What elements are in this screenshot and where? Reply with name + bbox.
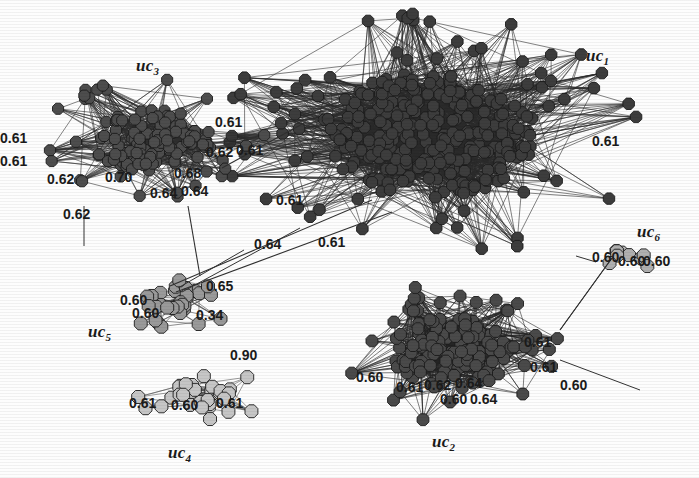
graph-node[interactable] <box>508 341 520 353</box>
graph-node[interactable] <box>161 301 174 314</box>
graph-node[interactable] <box>603 193 614 204</box>
graph-node[interactable] <box>409 282 421 294</box>
graph-node[interactable] <box>134 190 145 201</box>
graph-node[interactable] <box>117 115 128 126</box>
graph-node[interactable] <box>479 106 490 117</box>
graph-node[interactable] <box>434 297 446 309</box>
graph-node[interactable] <box>401 119 412 130</box>
graph-node[interactable] <box>397 175 408 187</box>
graph-node[interactable] <box>406 79 418 91</box>
graph-node[interactable] <box>456 99 467 111</box>
graph-node[interactable] <box>388 316 400 328</box>
graph-node[interactable] <box>469 181 480 193</box>
graph-node[interactable] <box>479 118 491 130</box>
graph-node[interactable] <box>452 222 463 233</box>
graph-node[interactable] <box>110 149 121 160</box>
graph-node[interactable] <box>363 135 374 146</box>
graph-node[interactable] <box>436 213 448 225</box>
graph-node[interactable] <box>480 174 492 186</box>
graph-node[interactable] <box>506 19 517 31</box>
graph-node[interactable] <box>427 119 439 130</box>
graph-node[interactable] <box>391 47 402 59</box>
graph-node[interactable] <box>408 305 420 317</box>
graph-node[interactable] <box>192 152 203 163</box>
graph-node[interactable] <box>524 130 536 142</box>
graph-node[interactable] <box>462 332 474 344</box>
graph-node[interactable] <box>302 151 314 163</box>
graph-node[interactable] <box>630 111 642 122</box>
graph-node[interactable] <box>445 71 457 82</box>
graph-node[interactable] <box>486 356 498 368</box>
graph-node[interactable] <box>353 111 364 123</box>
graph-node[interactable] <box>445 321 457 333</box>
graph-node[interactable] <box>293 123 304 134</box>
graph-node[interactable] <box>134 133 145 144</box>
graph-node[interactable] <box>435 157 446 168</box>
graph-node[interactable] <box>588 83 599 94</box>
graph-node[interactable] <box>325 123 337 134</box>
graph-node[interactable] <box>44 145 55 156</box>
graph-node[interactable] <box>99 131 110 142</box>
graph-node[interactable] <box>458 187 470 198</box>
graph-node[interactable] <box>551 175 563 187</box>
graph-node[interactable] <box>471 96 483 108</box>
graph-node[interactable] <box>431 53 443 65</box>
graph-node[interactable] <box>349 97 361 109</box>
graph-node[interactable] <box>97 80 108 91</box>
graph-node[interactable] <box>536 67 548 78</box>
graph-node[interactable] <box>162 135 173 146</box>
graph-node[interactable] <box>197 370 210 383</box>
graph-node[interactable] <box>552 333 564 345</box>
graph-node[interactable] <box>299 74 311 86</box>
graph-node[interactable] <box>415 158 426 170</box>
graph-node[interactable] <box>415 120 426 131</box>
graph-node[interactable] <box>518 187 529 198</box>
graph-node[interactable] <box>93 149 104 160</box>
graph-node[interactable] <box>417 414 429 426</box>
graph-node[interactable] <box>235 89 247 100</box>
graph-node[interactable] <box>545 75 557 87</box>
graph-node[interactable] <box>46 156 57 167</box>
graph-node[interactable] <box>462 111 473 123</box>
graph-node[interactable] <box>522 79 533 91</box>
graph-node[interactable] <box>445 168 457 179</box>
graph-node[interactable] <box>395 329 407 341</box>
graph-node[interactable] <box>381 149 393 160</box>
graph-node[interactable] <box>546 49 557 61</box>
graph-node[interactable] <box>149 137 160 148</box>
graph-node[interactable] <box>519 360 531 372</box>
graph-node[interactable] <box>241 371 254 384</box>
graph-node[interactable] <box>352 193 364 204</box>
graph-node[interactable] <box>407 340 419 352</box>
graph-node[interactable] <box>384 184 395 195</box>
graph-node[interactable] <box>365 108 377 119</box>
graph-node[interactable] <box>509 100 521 112</box>
graph-node[interactable] <box>401 55 412 67</box>
graph-node[interactable] <box>366 177 377 189</box>
graph-node[interactable] <box>239 72 251 84</box>
graph-node[interactable] <box>458 205 470 216</box>
graph-node[interactable] <box>490 326 502 338</box>
graph-node[interactable] <box>512 298 524 310</box>
graph-node[interactable] <box>512 240 524 252</box>
graph-node[interactable] <box>275 117 286 128</box>
graph-node[interactable] <box>386 128 397 140</box>
graph-node[interactable] <box>71 136 82 147</box>
graph-node[interactable] <box>362 15 374 27</box>
graph-node[interactable] <box>203 127 214 138</box>
graph-node[interactable] <box>330 150 342 161</box>
graph-node[interactable] <box>476 243 487 255</box>
graph-node[interactable] <box>454 130 465 141</box>
graph-node[interactable] <box>400 155 412 167</box>
graph-node[interactable] <box>155 400 168 413</box>
graph-node[interactable] <box>424 360 436 372</box>
graph-node[interactable] <box>424 78 436 89</box>
graph-node[interactable] <box>391 110 402 122</box>
graph-node[interactable] <box>559 94 570 106</box>
graph-node[interactable] <box>440 355 452 367</box>
graph-node[interactable] <box>324 72 336 84</box>
graph-node[interactable] <box>490 294 502 306</box>
graph-node[interactable] <box>428 100 440 112</box>
graph-node[interactable] <box>495 163 506 175</box>
graph-node[interactable] <box>245 405 258 418</box>
